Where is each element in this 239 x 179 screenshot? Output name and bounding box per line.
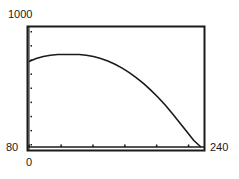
function-curve [29,55,201,148]
axis-ticks [29,31,190,147]
plot-frame [28,27,205,151]
graph-window [0,0,239,179]
